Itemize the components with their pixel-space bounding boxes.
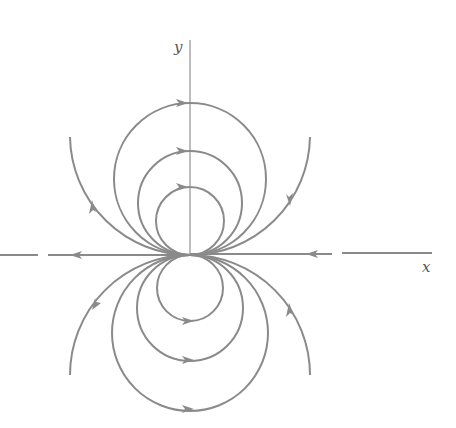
arrow-icon — [176, 183, 188, 191]
y-axis-label: y — [173, 38, 183, 56]
lower-trajectories — [70, 255, 310, 411]
x-axis — [0, 253, 432, 255]
arrow-icon — [176, 147, 188, 155]
x-axis-label: x — [422, 258, 431, 276]
phase-portrait-diagram: y x — [0, 0, 456, 428]
